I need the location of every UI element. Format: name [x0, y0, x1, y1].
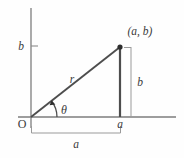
y-axis-value-label: b	[18, 40, 24, 52]
point-marker-ab	[117, 44, 122, 49]
hypotenuse-label: r	[70, 73, 75, 85]
point-label: (a, b)	[128, 25, 153, 38]
hypotenuse-segment	[31, 47, 120, 117]
angle-label: θ	[61, 103, 67, 117]
x-axis-value-label: a	[117, 118, 123, 130]
diagram-canvas: O (a, b) r θ b a b a	[0, 0, 184, 158]
vertical-brace-label: b	[137, 76, 143, 88]
polar-coordinate-diagram: O (a, b) r θ b a b a	[0, 0, 184, 158]
horizontal-brace-label: a	[73, 138, 79, 150]
origin-label: O	[18, 117, 27, 131]
